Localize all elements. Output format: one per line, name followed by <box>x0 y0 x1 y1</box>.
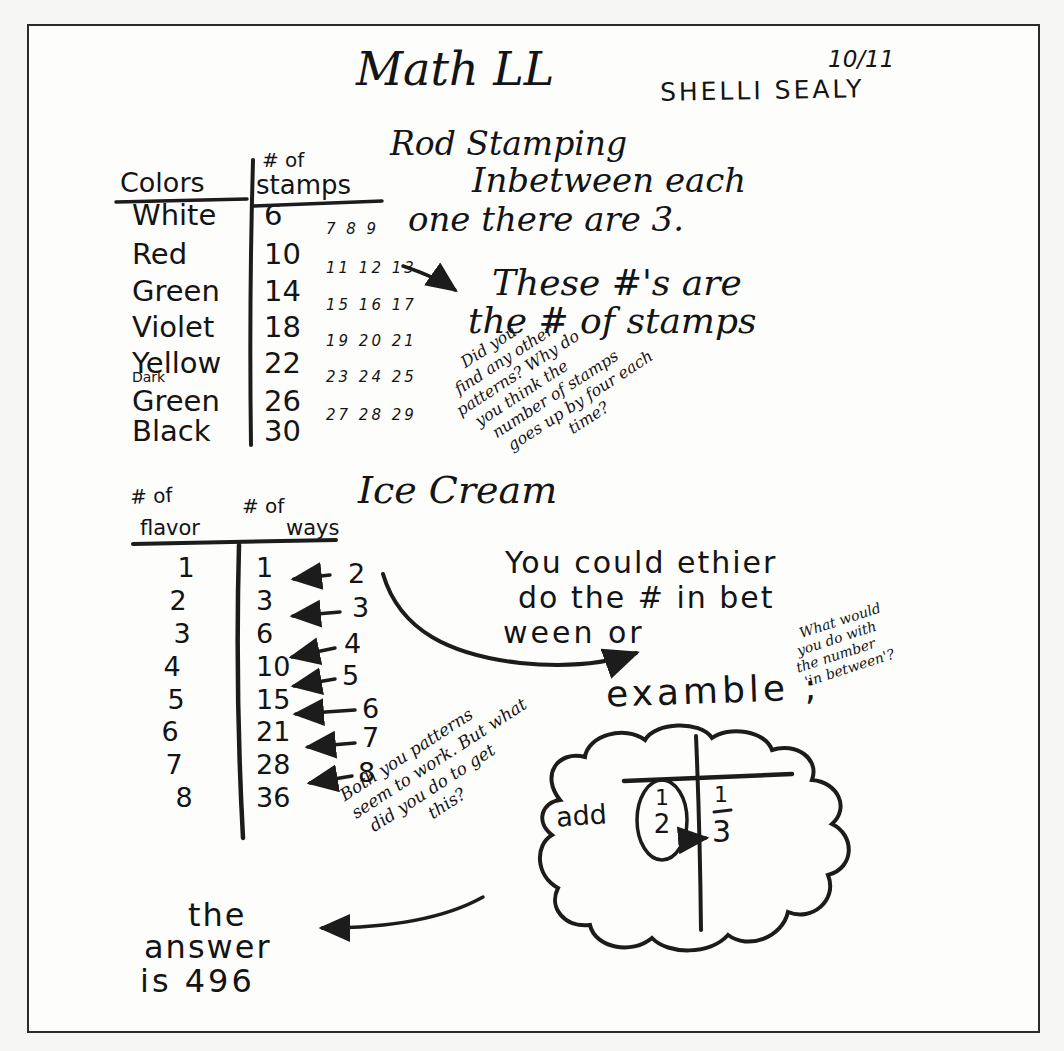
ways-cell: 36 <box>256 782 290 813</box>
flavors-cell: 5 <box>158 684 194 715</box>
table-row: 3 6 <box>0 618 340 652</box>
table-row: Black 30 <box>0 414 440 454</box>
table-row: Red 10 11 12 13 <box>0 237 440 277</box>
flavors-cell: 2 <box>160 585 196 616</box>
section-heading-ice-cream: Ice Cream <box>358 468 557 512</box>
ways-cell: 28 <box>256 749 290 780</box>
cloud-result: 3 <box>712 814 731 849</box>
color-cell: White <box>132 198 216 232</box>
table-row: 8 36 <box>0 782 340 816</box>
cloud-fraction: 1 2 <box>646 786 678 838</box>
cloud-add-label: add <box>555 798 608 832</box>
stamps-col2-header-bottom: stamps <box>256 170 351 200</box>
date: 10/11 <box>828 46 894 72</box>
student-name: SHELLI SEALY <box>660 74 865 107</box>
student-note-line1: You could ethier <box>505 545 777 580</box>
table-row: 4 10 <box>0 651 340 685</box>
answer-line2: answer <box>144 928 272 966</box>
difference-value: 5 <box>342 660 359 691</box>
difference-value: 2 <box>348 558 365 589</box>
table-row: Yellow 22 23 24 25 <box>0 346 440 386</box>
note-inbetween-line1: Inbetween each <box>472 160 746 200</box>
stamps-cell: 26 <box>264 384 301 418</box>
ways-cell: 10 <box>256 651 290 682</box>
ways-cell: 1 <box>256 552 273 583</box>
flavors-col1-header-top: # of <box>129 483 173 509</box>
color-cell: Red <box>132 237 187 271</box>
difference-value: 3 <box>352 592 369 623</box>
section-heading-rod-stamping: Rod Stamping <box>390 124 627 163</box>
stamps-cell: 10 <box>264 237 301 271</box>
stamps-col1-header: Colors <box>120 167 205 198</box>
ways-cell: 3 <box>256 585 273 616</box>
flavors-cell: 7 <box>156 749 192 780</box>
table-row: 7 28 <box>0 749 340 783</box>
table-row: Violet 18 19 20 21 <box>0 310 440 350</box>
cloud-result-top: 1 <box>714 782 728 807</box>
cloud-fraction-top: 1 <box>646 786 678 810</box>
difference-value: 4 <box>344 628 361 659</box>
flavors-col2-header-bottom: ways <box>286 516 339 540</box>
ways-cell: 21 <box>256 716 290 747</box>
table-row: 5 15 <box>0 684 340 718</box>
color-cell: Green <box>132 384 220 418</box>
table-row: Green 14 15 16 17 <box>0 274 440 314</box>
stamps-cell: 18 <box>264 310 301 344</box>
color-cell: Black <box>132 414 210 448</box>
color-prefix: Dark <box>132 369 165 385</box>
difference-value: 6 <box>362 693 379 724</box>
flavors-cell: 3 <box>164 618 200 649</box>
student-note-line2: do the # in bet <box>518 580 775 615</box>
color-cell: Green <box>132 274 220 308</box>
annotation-line1: These #'s are <box>492 262 742 303</box>
example-label: examble ; <box>605 666 821 714</box>
flavors-cell: 4 <box>154 651 190 682</box>
color-cell: Violet <box>132 310 214 344</box>
page-title: Math LL <box>356 42 554 96</box>
stamps-col2-header-top: # of <box>262 148 304 172</box>
flavors-cell: 1 <box>168 552 204 583</box>
ways-cell: 15 <box>256 684 290 715</box>
flavors-col2-header-top: # of <box>242 494 284 518</box>
cloud-fraction-bottom: 2 <box>646 810 678 838</box>
stamps-cell: 30 <box>264 414 301 448</box>
flavors-cell: 6 <box>152 716 188 747</box>
table-row: 6 21 <box>0 716 340 750</box>
difference-value: 7 <box>362 722 379 753</box>
flavors-cell: 8 <box>166 782 202 813</box>
stamps-cell: 22 <box>264 346 301 380</box>
answer-line3: is 496 <box>140 962 255 1000</box>
table-row: White 6 7 8 9 <box>0 198 440 238</box>
table-row: 2 3 <box>0 585 340 619</box>
between-numbers: 7 8 9 <box>326 220 379 238</box>
table-row: 1 1 <box>0 552 340 586</box>
student-note-line3: ween or <box>503 615 645 650</box>
stamps-cell: 6 <box>264 198 282 232</box>
stamps-cell: 14 <box>264 274 301 308</box>
flavors-col1-header-bottom: flavor <box>140 516 200 540</box>
note-inbetween-line2: one there are 3. <box>408 199 684 239</box>
ways-cell: 6 <box>256 618 273 649</box>
